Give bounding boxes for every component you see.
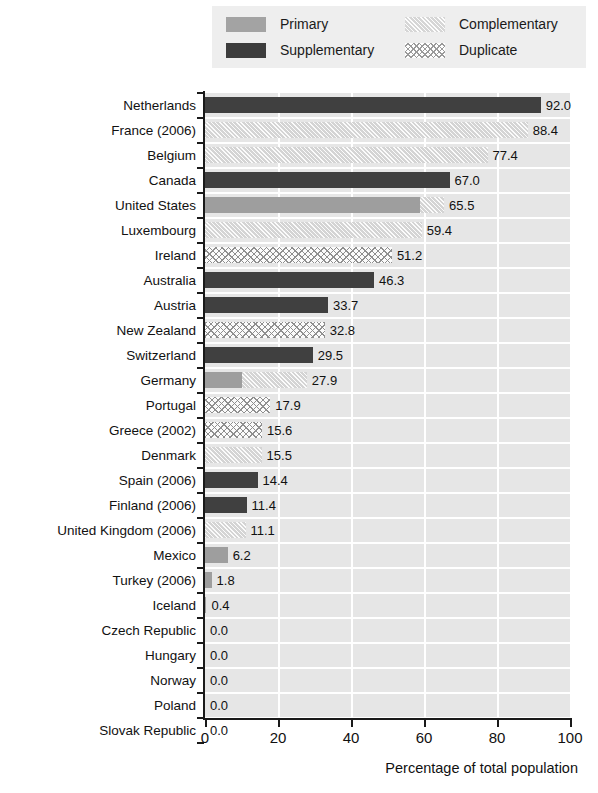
bar-row[interactable]: 33.7 [205,293,570,318]
bar-value-label: 88.4 [533,118,558,143]
x-axis-tick-label: 0 [201,729,209,746]
bar-row[interactable]: 32.8 [205,318,570,343]
bar-value-label: 15.5 [267,443,292,468]
bar-segment-supplementary [205,472,258,488]
bar-row[interactable]: 29.5 [205,343,570,368]
y-axis-tick [197,517,204,519]
x-axis-tick-label: 20 [270,729,287,746]
y-axis-line [203,91,205,720]
category-label: Spain (2006) [0,468,196,493]
bar-segment-duplicate [205,322,325,338]
bar-row[interactable]: 67.0 [205,168,570,193]
x-axis-tick-label: 80 [489,729,506,746]
category-label: Greece (2002) [0,418,196,443]
bar-segment-supplementary [205,172,450,188]
category-label: New Zealand [0,318,196,343]
y-axis-tick [197,417,204,419]
x-axis-tick [205,720,207,727]
bar-segment-supplementary [205,272,374,288]
y-axis-tick [197,442,204,444]
x-axis-tick [570,720,572,727]
bar-segment-duplicate [205,397,270,413]
bar-row[interactable]: 0.0 [205,693,570,718]
bar-value-label: 0.4 [211,593,229,618]
y-axis-tick [197,367,204,369]
bar-value-label: 0.0 [210,718,228,743]
y-axis-tick [197,617,204,619]
y-axis-tick [197,467,204,469]
bar-row[interactable]: 0.0 [205,643,570,668]
bar-segment-complementary [205,122,528,138]
category-label: Czech Republic [0,618,196,643]
bar-row[interactable]: 92.0 [205,93,570,118]
bar-row[interactable]: 27.9 [205,368,570,393]
category-label: Mexico [0,543,196,568]
legend-item-primary[interactable]: Primary [226,14,328,34]
legend-item-supplementary[interactable]: Supplementary [226,40,374,60]
category-label: Slovak Republic [0,718,196,743]
category-label: Denmark [0,443,196,468]
y-axis-tick [197,167,204,169]
bar-value-label: 46.3 [379,268,404,293]
category-label: United States [0,193,196,218]
bar-value-label: 0.0 [210,668,228,693]
bar-row[interactable]: 15.6 [205,418,570,443]
bar-row[interactable]: 59.4 [205,218,570,243]
category-label: Ireland [0,243,196,268]
x-axis-tick-label: 40 [343,729,360,746]
bar-value-label: 0.0 [210,693,228,718]
bar-row[interactable]: 0.4 [205,593,570,618]
bar-row[interactable]: 51.2 [205,243,570,268]
bar-row[interactable]: 0.0 [205,668,570,693]
category-label: Finland (2006) [0,493,196,518]
y-axis-tick [197,192,204,194]
bar-row[interactable]: 77.4 [205,143,570,168]
bar-value-label: 29.5 [318,343,343,368]
bar-segment-primary [205,597,206,613]
bar-row[interactable]: 46.3 [205,268,570,293]
category-label: France (2006) [0,118,196,143]
y-axis-tick [197,592,204,594]
bar-segment-primary [205,547,228,563]
bar-value-label: 32.8 [330,318,355,343]
bar-segment-complementary [242,372,307,388]
bar-value-label: 14.4 [263,468,288,493]
legend-item-complementary[interactable]: Complementary [405,14,558,34]
bar-segment-complementary [420,197,444,213]
bar-row[interactable]: 17.9 [205,393,570,418]
y-axis-tick [197,642,204,644]
bar-row[interactable]: 65.5 [205,193,570,218]
y-axis-tick [197,267,204,269]
x-axis-tick [497,720,499,727]
bar-value-label: 51.2 [397,243,422,268]
legend-swatch-supplementary-icon [226,43,266,58]
bar-row[interactable]: 6.2 [205,543,570,568]
legend-item-duplicate[interactable]: Duplicate [405,40,517,60]
bar-segment-supplementary [205,347,313,363]
y-axis-tick [197,542,204,544]
category-label: Luxembourg [0,218,196,243]
bar-row[interactable]: 0.0 [205,618,570,643]
bar-value-label: 92.0 [546,93,571,118]
category-label: Hungary [0,643,196,668]
bar-row[interactable]: 88.4 [205,118,570,143]
bar-row[interactable]: 14.4 [205,468,570,493]
chart-legend: Primary Supplementary Complementary Dupl… [212,6,586,68]
legend-swatch-duplicate-icon [405,43,445,58]
bar-row[interactable]: 15.5 [205,443,570,468]
category-label: Portugal [0,393,196,418]
y-axis-tick [197,692,204,694]
legend-swatch-primary-icon [226,17,266,32]
category-label: Canada [0,168,196,193]
bar-segment-supplementary [205,297,328,313]
x-axis-tick [351,720,353,727]
bar-segment-supplementary [205,97,541,113]
bar-row[interactable]: 1.8 [205,568,570,593]
bar-row[interactable]: 11.4 [205,493,570,518]
category-label: Germany [0,368,196,393]
x-axis-tick-label: 60 [416,729,433,746]
y-axis-tick [197,717,204,719]
bar-row[interactable]: 0.0 [205,718,570,743]
bar-segment-supplementary [205,497,247,513]
bar-row[interactable]: 11.1 [205,518,570,543]
